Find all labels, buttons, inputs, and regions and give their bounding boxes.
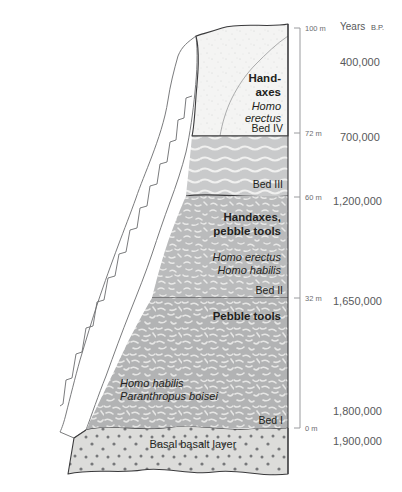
years-header-suffix: B.P. [371, 23, 384, 32]
bed-2-label-1: pebble tools [213, 225, 281, 237]
axis-tick-label: 0 m [305, 424, 318, 433]
stratigraphic-figure: 100 m 72 m 60 m 32 m 0 m Years B.P. [0, 0, 402, 492]
bed-2-label-0: Handaxes, [223, 211, 281, 223]
years-column: Years B.P. 400,000 700,000 1,200,000 1,6… [333, 21, 384, 447]
basalt-label: Basal basalt layer [150, 438, 237, 450]
axis-tick-label: 72 m [305, 129, 322, 138]
axis-tick-1: 72 m [294, 129, 322, 138]
axis-tick-3: 32 m [294, 294, 322, 303]
axis-tick-0: 100 m [294, 24, 326, 33]
years-header: Years [340, 21, 365, 32]
bed-1-label-1: Homo habilis [120, 377, 184, 389]
metre-axis: 100 m 72 m 60 m 32 m 0 m [294, 24, 326, 433]
bed-label-bed-iii: Bed III [253, 178, 283, 190]
year-label: 1,800,000 [333, 405, 382, 417]
bed-4-label-0: Hand- [248, 72, 281, 84]
bed-label-bed-i: Bed I [258, 414, 283, 426]
year-label: 1,900,000 [333, 435, 382, 447]
axis-tick-label: 32 m [305, 294, 322, 303]
year-label: 1,650,000 [333, 295, 382, 307]
axis-tick-label: 60 m [305, 193, 322, 202]
basalt-layer [68, 427, 288, 475]
axis-tick-2: 60 m [294, 193, 322, 202]
axis-tick-4: 0 m [294, 424, 318, 433]
bed-label-bed-ii: Bed II [256, 284, 283, 296]
bed-4-label-1: axes [255, 86, 281, 98]
year-label: 400,000 [340, 56, 380, 68]
year-label: 1,200,000 [333, 195, 382, 207]
bed-1-label-2: Paranthropus boisei [120, 390, 218, 402]
diagram-svg: 100 m 72 m 60 m 32 m 0 m Years B.P. [0, 0, 402, 492]
bed-2-label-3: Homo habilis [217, 264, 281, 276]
basalt-labels: Basal basalt layer [150, 438, 237, 450]
bed-1-label-0: Pebble tools [213, 310, 281, 322]
year-label: 700,000 [340, 131, 380, 143]
bed-4-label-2: Homo [252, 100, 281, 112]
bed-2-label-2: Homo erectus [213, 251, 282, 263]
bed-label-bed-iv: Bed IV [251, 122, 283, 134]
axis-tick-label: 100 m [305, 24, 326, 33]
